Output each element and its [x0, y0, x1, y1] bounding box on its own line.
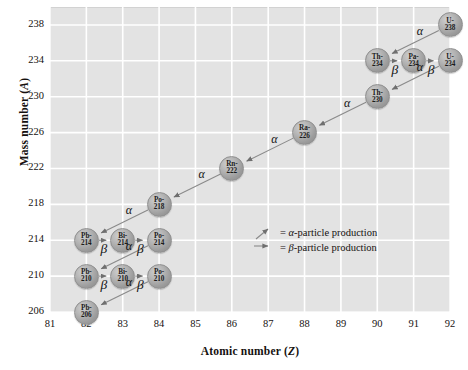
decay-label-alpha: α: [126, 239, 132, 254]
nuclide-node[interactable]: Ra-226: [292, 120, 317, 145]
decay-label-alpha: α: [417, 60, 423, 75]
decay-label-beta: β: [137, 241, 144, 257]
nuclide-mass: 214: [154, 240, 164, 247]
legend-beta-label: = β-particle production: [280, 242, 377, 253]
nuclide-mass: 222: [227, 168, 237, 175]
y-axis-tick-label: 238: [4, 18, 44, 29]
nuclide-node[interactable]: Pb-206: [74, 300, 99, 325]
x-axis-tick-label: 84: [139, 318, 179, 329]
legend-alpha-label: = α-particle production: [280, 227, 377, 238]
x-axis-tick-label: 92: [430, 318, 468, 329]
nuclide-mass: 214: [81, 240, 91, 247]
x-axis-tick-label: 87: [248, 318, 288, 329]
decay-label-alpha: α: [198, 167, 204, 182]
y-axis-tick-label: 210: [4, 269, 44, 280]
nuclide-node[interactable]: Pb-210: [74, 264, 99, 289]
decay-label-beta: β: [391, 62, 398, 78]
decay-label-alpha: α: [344, 96, 350, 111]
x-axis-tick-label: 89: [321, 318, 361, 329]
x-axis-tick-label: 86: [212, 318, 252, 329]
nuclide-node[interactable]: Po-210: [147, 264, 172, 289]
nuclide-mass: 230: [372, 97, 382, 104]
y-axis-tick-label: 214: [4, 233, 44, 244]
nuclide-node[interactable]: Th-234: [365, 48, 390, 73]
nuclide-mass: 226: [299, 133, 309, 140]
x-axis-tick-label: 90: [357, 318, 397, 329]
y-axis-title: Mass number (A): [18, 52, 30, 192]
decay-label-beta: β: [137, 277, 144, 293]
decay-label-beta: β: [101, 241, 108, 257]
nuclide-mass: 210: [154, 276, 164, 283]
decay-label-beta: β: [428, 62, 435, 78]
y-axis-tick-label: 206: [4, 305, 44, 316]
nuclide-mass: 206: [81, 312, 91, 319]
x-axis-tick-label: 81: [30, 318, 70, 329]
x-axis-tick-label: 91: [394, 318, 434, 329]
nuclide-mass: 218: [154, 204, 164, 211]
y-axis-tick-label: 218: [4, 197, 44, 208]
decay-label-alpha: α: [126, 203, 132, 218]
x-axis-tick-label: 83: [103, 318, 143, 329]
plot-area: [50, 7, 450, 312]
decay-label-beta: β: [101, 277, 108, 293]
nuclide-mass: 234: [445, 61, 455, 68]
nuclide-node[interactable]: U-238: [438, 12, 463, 37]
nuclide-node[interactable]: Po-214: [147, 228, 172, 253]
nuclide-node[interactable]: Th-230: [365, 84, 390, 109]
nuclide-node[interactable]: U-234: [438, 48, 463, 73]
nuclide-mass: 234: [372, 61, 382, 68]
decay-label-alpha: α: [126, 275, 132, 290]
nuclide-mass: 210: [81, 276, 91, 283]
x-axis-title: Atomic number (Z): [50, 345, 450, 357]
x-axis-tick-label: 85: [175, 318, 215, 329]
x-axis-tick-label: 88: [285, 318, 325, 329]
nuclide-node[interactable]: Po-218: [147, 192, 172, 217]
nuclide-node[interactable]: Pb-214: [74, 228, 99, 253]
decay-label-alpha: α: [271, 132, 277, 147]
nuclide-mass: 238: [445, 25, 455, 32]
decay-label-alpha: α: [417, 24, 423, 39]
